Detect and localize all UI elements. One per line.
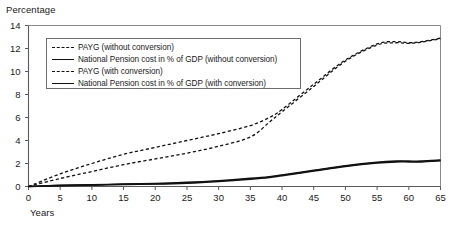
legend-item-label: National Pension cost in % of GDP (with …	[78, 79, 266, 88]
x-tick-label: 10	[82, 192, 102, 203]
y-tick-label: 8	[5, 89, 21, 100]
dashed-line-swatch-icon	[52, 42, 74, 52]
series-line-1	[29, 160, 441, 186]
legend-item: National Pension cost in % of GDP (with …	[52, 77, 300, 89]
legend-item-label: National Pension cost in % of GDP (witho…	[78, 55, 277, 64]
legend-item: National Pension cost in % of GDP (witho…	[52, 53, 300, 65]
x-tick-label: 30	[209, 192, 229, 203]
x-tick-label: 55	[367, 192, 387, 203]
x-tick-label: 0	[19, 192, 39, 203]
y-tick-label: 12	[5, 43, 21, 54]
y-tick-label: 10	[5, 66, 21, 77]
x-tick-label: 5	[50, 192, 70, 203]
legend-item: PAYG (without conversion)	[52, 41, 300, 53]
x-tick-label: 50	[335, 192, 355, 203]
x-tick-label: 60	[399, 192, 419, 203]
y-tick-label: 4	[5, 135, 21, 146]
chart-container: Percentage Years 02468101214 05101520253…	[0, 0, 452, 228]
series-line-3	[29, 161, 441, 187]
x-tick-label: 40	[272, 192, 292, 203]
y-tick-label: 6	[5, 112, 21, 123]
legend-item: PAYG (with conversion)	[52, 65, 300, 77]
x-tick-label: 20	[145, 192, 165, 203]
dashed-line-swatch-icon	[52, 66, 74, 76]
solid-line-swatch-icon	[52, 78, 74, 88]
y-tick-label: 2	[5, 158, 21, 169]
legend-item-label: PAYG (without conversion)	[78, 43, 174, 52]
legend-item-label: PAYG (with conversion)	[78, 67, 163, 76]
y-tick-label: 14	[5, 20, 21, 31]
solid-line-swatch-icon	[52, 54, 74, 64]
x-tick-label: 45	[304, 192, 324, 203]
chart-legend: PAYG (without conversion)National Pensio…	[46, 38, 301, 89]
x-tick-label: 15	[114, 192, 134, 203]
x-tick-label: 65	[431, 192, 451, 203]
y-tick-label: 0	[5, 181, 21, 192]
x-tick-label: 25	[177, 192, 197, 203]
x-tick-label: 35	[240, 192, 260, 203]
